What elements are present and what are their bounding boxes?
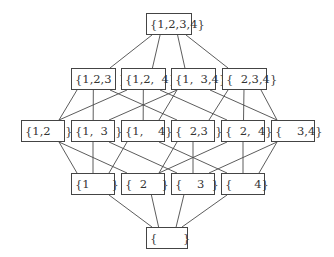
edge-2-empty [151, 195, 158, 227]
set-node-4: { 4} [221, 173, 265, 195]
edge-1-empty [109, 195, 152, 227]
edge-1234-124 [152, 35, 160, 68]
set-node-23: { 2,3 } [171, 120, 215, 142]
edge-3-empty [176, 195, 184, 227]
set-node-123: {1,2,3 } [71, 68, 116, 90]
set-node-label: {1,2,3,4} [150, 14, 188, 34]
set-node-1234: {1,2,3,4} [146, 13, 192, 35]
set-node-label: { 2,3 } [175, 121, 211, 141]
set-node-label: { 2 } [125, 174, 161, 194]
set-node-label: {1, 4} [125, 121, 161, 141]
edge-1234-134 [178, 35, 185, 68]
set-node-label: {1, 3,4} [175, 69, 212, 89]
set-node-12: {1,2 } [21, 120, 65, 142]
set-node-label: { 3 } [175, 174, 211, 194]
set-node-label: {1 } [75, 174, 111, 194]
set-node-label: { 3,4} [275, 121, 311, 141]
edge-4-empty [182, 195, 227, 227]
set-node-234: { 2,3,4} [222, 68, 267, 90]
set-node-label: {1,2, 4} [125, 69, 162, 89]
set-node-13: {1, 3 } [71, 120, 115, 142]
set-node-1: {1 } [71, 173, 115, 195]
set-node-label: {1,2 } [25, 121, 61, 141]
set-node-34: { 3,4} [271, 120, 315, 142]
set-node-24: { 2, 4} [221, 120, 265, 142]
set-node-label: { 2, 4} [225, 121, 261, 141]
set-node-label: {1,2,3 } [75, 69, 112, 89]
edge-1234-123 [110, 35, 152, 68]
set-node-134: {1, 3,4} [171, 68, 216, 90]
set-node-empty: { } [146, 227, 188, 249]
set-node-label: { } [150, 228, 184, 248]
set-node-3: { 3 } [171, 173, 215, 195]
set-node-124: {1,2, 4} [121, 68, 166, 90]
set-node-label: { 2,3,4} [226, 69, 263, 89]
edge-1234-234 [186, 35, 228, 68]
set-node-label: {1, 3 } [75, 121, 111, 141]
set-node-label: { 4} [225, 174, 261, 194]
set-node-2: { 2 } [121, 173, 165, 195]
set-node-14: {1, 4} [121, 120, 165, 142]
